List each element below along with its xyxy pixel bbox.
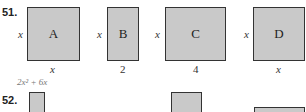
problem-52-expression: 2x² + 6x — [17, 77, 47, 87]
figure-b-bottom-label: 2 — [120, 64, 126, 75]
figure-d-label: D — [274, 26, 283, 42]
problem-52-figure-1 — [29, 92, 45, 112]
problem-number-51: 51. — [2, 6, 17, 18]
figure-c-label: C — [191, 26, 200, 42]
problem-52-figure-2 — [171, 92, 202, 112]
figure-d-bottom-label: x — [276, 64, 281, 75]
figure-b-side-label: x — [97, 29, 102, 40]
figure-d-rectangle: D — [253, 7, 305, 61]
figure-c-bottom-label: 4 — [193, 64, 199, 75]
figure-a-bottom-label: x — [50, 64, 55, 75]
problem-52-figure-3 — [254, 107, 305, 112]
figure-b-label: B — [119, 26, 128, 42]
problem-number-52: 52. — [2, 94, 17, 106]
figure-c-rectangle: C — [165, 7, 226, 61]
figure-c-side-label: x — [155, 29, 160, 40]
figure-b-rectangle: B — [107, 7, 139, 61]
figure-d-side-label: x — [244, 29, 249, 40]
figure-a-rectangle: A — [27, 7, 80, 61]
figure-a-label: A — [49, 26, 58, 42]
figure-a-side-label: x — [18, 29, 23, 40]
